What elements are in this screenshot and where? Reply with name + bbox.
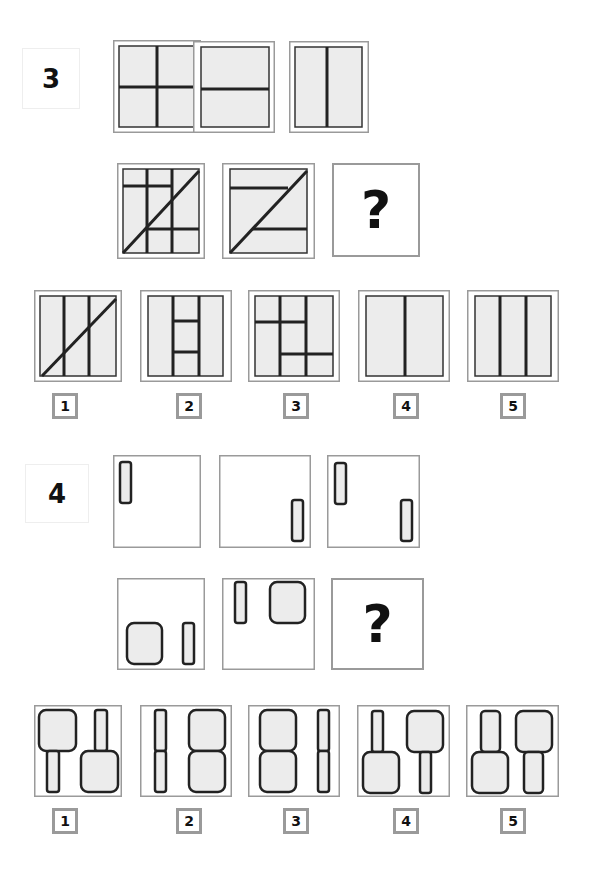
p4-option-4-label[interactable]: 4 bbox=[393, 808, 419, 834]
p4-option-4-figure[interactable] bbox=[357, 705, 450, 797]
p3-option-1-figure[interactable] bbox=[34, 290, 122, 382]
puzzle-number-text: 4 bbox=[48, 479, 66, 509]
p3-option-4-label[interactable]: 4 bbox=[393, 393, 419, 419]
option-label-text: 1 bbox=[60, 813, 70, 829]
p4-option-5-figure[interactable] bbox=[466, 705, 559, 797]
p4-option-1-label[interactable]: 1 bbox=[52, 808, 78, 834]
p4-matrix-cell-3 bbox=[327, 455, 420, 548]
p4-option-2-figure[interactable] bbox=[140, 705, 232, 797]
p4-matrix-cell-1 bbox=[113, 455, 201, 548]
p3-option-5-figure[interactable] bbox=[467, 290, 559, 382]
p4-matrix-cell-4 bbox=[117, 578, 205, 670]
question-mark-icon: ? bbox=[361, 184, 391, 236]
grid-diagonal-figure bbox=[117, 163, 205, 259]
option-label-text: 5 bbox=[508, 398, 518, 414]
p4-matrix-cell-2 bbox=[219, 455, 311, 548]
p3-answer-slot[interactable]: ? bbox=[332, 163, 420, 257]
option-label-text: 2 bbox=[184, 813, 194, 829]
p3-matrix-cell-2 bbox=[193, 41, 275, 133]
horizontal-line-figure bbox=[193, 41, 275, 133]
p4-option-5-label[interactable]: 5 bbox=[500, 808, 526, 834]
p3-matrix-cell-3 bbox=[289, 41, 369, 133]
p3-option-4-figure[interactable] bbox=[358, 290, 450, 382]
p4-matrix-cell-5 bbox=[222, 578, 315, 670]
option-label-text: 5 bbox=[508, 813, 518, 829]
p4-answer-slot[interactable]: ? bbox=[331, 578, 424, 670]
p3-matrix-cell-5 bbox=[222, 163, 315, 259]
p3-matrix-cell-4 bbox=[117, 163, 205, 259]
p3-option-2-label[interactable]: 2 bbox=[176, 393, 202, 419]
question-mark-icon: ? bbox=[362, 598, 392, 650]
puzzle-number-4: 4 bbox=[25, 464, 89, 523]
p3-option-2-figure[interactable] bbox=[140, 290, 232, 382]
p3-option-5-label[interactable]: 5 bbox=[500, 393, 526, 419]
p4-option-2-label[interactable]: 2 bbox=[176, 808, 202, 834]
option-label-text: 4 bbox=[401, 813, 411, 829]
puzzle-number-text: 3 bbox=[42, 64, 60, 94]
puzzle-number-3: 3 bbox=[22, 48, 80, 109]
option-label-text: 3 bbox=[291, 398, 301, 414]
option-label-text: 1 bbox=[60, 398, 70, 414]
cross-lines-figure bbox=[113, 40, 201, 133]
p4-option-3-label[interactable]: 3 bbox=[283, 808, 309, 834]
vertical-line-figure bbox=[289, 41, 369, 133]
p3-option-1-label[interactable]: 1 bbox=[52, 393, 78, 419]
p4-option-3-figure[interactable] bbox=[248, 705, 340, 797]
p3-option-3-label[interactable]: 3 bbox=[283, 393, 309, 419]
p3-option-3-figure[interactable] bbox=[248, 290, 340, 382]
option-label-text: 2 bbox=[184, 398, 194, 414]
p3-matrix-cell-1 bbox=[113, 40, 201, 133]
option-label-text: 3 bbox=[291, 813, 301, 829]
z-shape-figure bbox=[222, 163, 315, 259]
p4-option-1-figure[interactable] bbox=[34, 705, 122, 797]
option-label-text: 4 bbox=[401, 398, 411, 414]
